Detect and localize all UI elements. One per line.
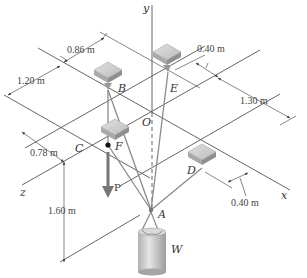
force-P-label: P	[114, 182, 121, 193]
cable-AE	[151, 72, 168, 210]
anchor-box-E	[153, 44, 181, 72]
floor-line	[60, 215, 140, 262]
dim-0-86: 0.86 m	[67, 44, 95, 55]
force-P-arrowhead	[102, 186, 114, 198]
point-D-label: D	[186, 164, 196, 177]
dim-1-60: 1.60 m	[48, 205, 76, 216]
z-axis-label: z	[19, 186, 26, 199]
dim-0-40-top: 0.40 m	[197, 43, 225, 54]
dim-1-30: 1.30 m	[240, 95, 268, 106]
point-B-label: B	[117, 82, 126, 95]
point-E-label: E	[169, 82, 178, 95]
weight-W-cylinder	[138, 212, 166, 276]
z-axis-line	[22, 50, 260, 185]
weight-W-label: W	[171, 243, 184, 256]
cable-AC	[108, 145, 151, 210]
anchor-box-D	[188, 144, 216, 165]
statics-diagram: y x z O A B C D E F P W 0.86 m 1.20 m 0.…	[0, 0, 307, 278]
point-F-label: F	[114, 140, 123, 153]
point-A-ring	[149, 208, 153, 212]
y-axis-label: y	[142, 2, 150, 15]
frame-line-left-x	[4, 95, 150, 178]
point-F-dot	[105, 142, 110, 147]
dim-1-20: 1.20 m	[17, 75, 45, 86]
point-O-label: O	[142, 116, 151, 129]
dim-0-78: 0.78 m	[30, 147, 58, 158]
point-C-label: C	[75, 142, 84, 155]
dim-0-40-bottom: 0.40 m	[231, 197, 259, 208]
x-axis-label: x	[281, 189, 288, 202]
point-A-label: A	[157, 208, 166, 221]
